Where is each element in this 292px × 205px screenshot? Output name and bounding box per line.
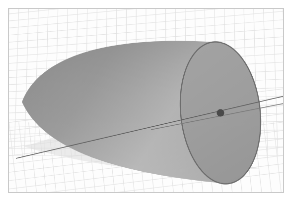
plot-frame: [8, 8, 284, 193]
plot-canvas-3d-cone: [9, 9, 283, 192]
figure-container: [0, 0, 292, 205]
